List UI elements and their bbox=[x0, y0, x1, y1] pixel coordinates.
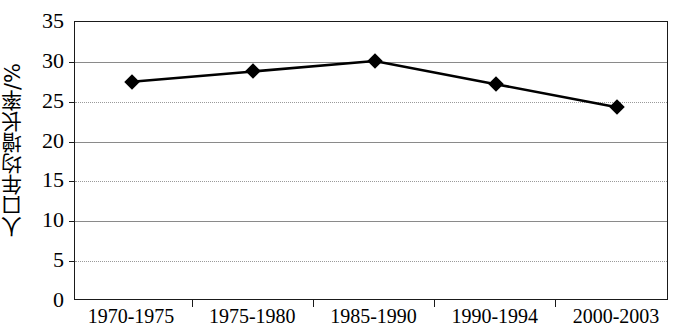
y-axis-tick-label: 25 bbox=[42, 90, 64, 112]
x-axis-tick-labels: 1970-19751975-19801985-19901990-19942000… bbox=[0, 306, 673, 330]
y-axis-title-text: 人口年均增长率/% bbox=[3, 63, 24, 237]
y-axis-tick-labels: 05101520253035 bbox=[26, 0, 70, 330]
x-axis-tick-label: 1990-1994 bbox=[451, 306, 538, 326]
y-axis-tick-label: 5 bbox=[53, 249, 64, 271]
x-axis-tick-label: 1970-1975 bbox=[88, 306, 175, 326]
x-axis-tick-label: 1985-1990 bbox=[330, 306, 417, 326]
chart-figure: 人口年均增长率/% 05101520253035 1970-19751975-1… bbox=[0, 0, 673, 330]
y-axis-tick-label: 20 bbox=[42, 130, 64, 152]
plot-area bbox=[74, 21, 668, 300]
x-axis-tick-label: 1975-1980 bbox=[209, 306, 296, 326]
y-axis-tick-label: 15 bbox=[42, 169, 64, 191]
y-axis-title: 人口年均增长率/% bbox=[0, 0, 26, 300]
x-axis-tick-label: 2000-2003 bbox=[573, 306, 660, 326]
y-axis-tick-label: 10 bbox=[42, 209, 64, 231]
y-axis-tick-label: 35 bbox=[42, 10, 64, 32]
y-axis-tick-label: 30 bbox=[42, 50, 64, 72]
